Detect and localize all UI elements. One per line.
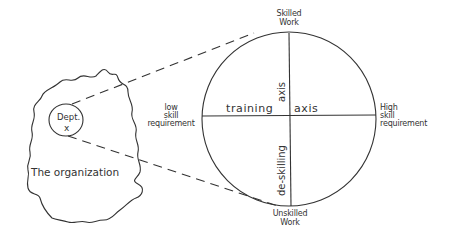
projection-line-top (72, 33, 254, 104)
vertical-axis-label-top: axis (276, 82, 287, 102)
organization-label: The organization (30, 166, 119, 178)
department-label-line1: Dept. (57, 112, 80, 122)
vertical-axis-label-bottom: de-skilling (276, 145, 287, 196)
organization-blob (27, 69, 142, 222)
high-skill-requirement-label: High skill requirement (380, 104, 444, 128)
unskilled-work-label-line2: Work (262, 219, 318, 227)
horizontal-axis-label-left: training (226, 102, 273, 115)
skilled-work-label-line1: Skilled (268, 10, 310, 18)
unskilled-work-label-line1: Unskilled (262, 210, 318, 218)
skilled-work-label: Skilled Work (268, 10, 310, 27)
horizontal-axis-label-right: axis (294, 102, 318, 115)
vertical-axis (289, 33, 291, 206)
low-skill-label-line3: requirement (140, 120, 202, 128)
low-skill-requirement-label: low skill requirement (140, 104, 202, 128)
unskilled-work-label: Unskilled Work (262, 210, 318, 227)
high-skill-label-line3: requirement (380, 120, 444, 128)
skilled-work-label-line2: Work (268, 19, 310, 27)
horizontal-axis (202, 115, 376, 116)
department-label-line2: x (64, 123, 70, 133)
